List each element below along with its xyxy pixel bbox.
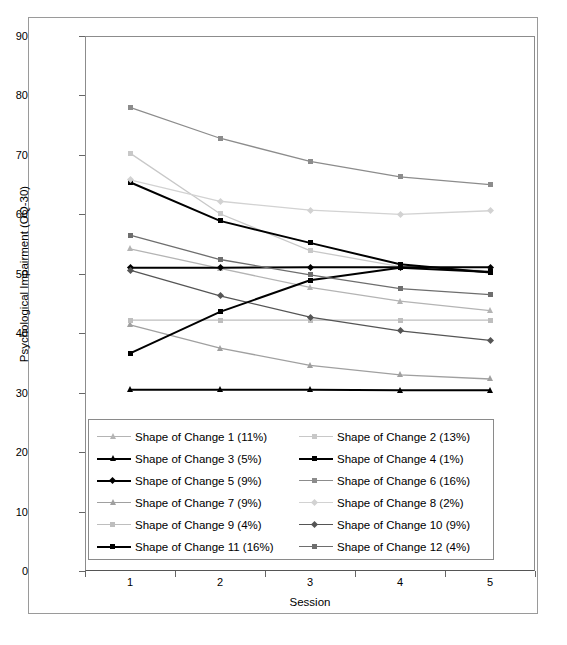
x-axis-tick-label: 4 <box>380 577 420 588</box>
legend-item[interactable]: Shape of Change 2 (13%) <box>291 426 493 448</box>
square-marker <box>128 105 133 110</box>
legend-label: Shape of Change 1 (11%) <box>135 431 267 443</box>
square-marker <box>488 292 493 297</box>
square-marker <box>312 544 317 549</box>
x-axis-tick-mark <box>175 571 176 577</box>
diamond-marker <box>109 476 116 483</box>
y-axis-tick-label: 20 <box>0 447 28 458</box>
legend-item[interactable]: Shape of Change 1 (11%) <box>89 426 291 448</box>
legend-label: Shape of Change 5 (9%) <box>135 475 262 487</box>
square-marker <box>398 318 403 323</box>
triangle-marker <box>307 284 313 290</box>
square-marker <box>308 248 313 253</box>
diamond-marker <box>311 520 318 527</box>
triangle-marker <box>217 386 223 392</box>
legend-swatch <box>97 519 131 531</box>
triangle-marker <box>397 387 403 393</box>
square-marker <box>218 318 223 323</box>
legend-swatch <box>299 431 333 443</box>
y-axis-tick-label: 90 <box>0 31 28 42</box>
triangle-marker <box>397 371 403 377</box>
square-marker <box>488 182 493 187</box>
square-marker <box>218 309 223 314</box>
square-marker <box>110 522 115 527</box>
triangle-marker <box>110 455 116 461</box>
y-axis-tick-label: 80 <box>0 90 28 101</box>
x-axis-tick-mark <box>535 571 536 577</box>
x-axis-tick-mark <box>265 571 266 577</box>
legend-item[interactable]: Shape of Change 7 (9%) <box>89 492 291 514</box>
chart-canvas: Psychological Impairment (OQ-30) Session… <box>0 0 567 645</box>
legend-label: Shape of Change 3 (5%) <box>135 453 262 465</box>
legend-swatch <box>299 541 333 553</box>
x-axis-tick-label: 2 <box>200 577 240 588</box>
triangle-marker <box>307 386 313 392</box>
legend-item[interactable]: Shape of Change 9 (4%) <box>89 514 291 536</box>
square-marker <box>312 434 317 439</box>
triangle-marker <box>487 307 493 313</box>
legend-swatch <box>97 431 131 443</box>
square-marker <box>218 136 223 141</box>
square-marker <box>398 174 403 179</box>
legend-item[interactable]: Shape of Change 10 (9%) <box>291 514 493 536</box>
y-axis-tick-label: 10 <box>0 506 28 517</box>
square-marker <box>218 257 223 262</box>
x-axis-tick-label: 5 <box>470 577 510 588</box>
triangle-marker <box>397 298 403 304</box>
series-line <box>130 182 490 272</box>
triangle-marker <box>110 433 116 439</box>
square-marker <box>218 211 223 216</box>
y-axis-tick-label: 40 <box>0 328 28 339</box>
x-axis-title: Session <box>85 596 535 608</box>
square-marker <box>128 151 133 156</box>
legend-label: Shape of Change 9 (4%) <box>135 519 262 531</box>
triangle-marker <box>110 499 116 505</box>
square-marker <box>218 218 223 223</box>
legend-item[interactable]: Shape of Change 5 (9%) <box>89 470 291 492</box>
legend-item[interactable]: Shape of Change 3 (5%) <box>89 448 291 470</box>
legend-item[interactable]: Shape of Change 12 (4%) <box>291 536 493 558</box>
square-marker <box>128 318 133 323</box>
legend-swatch <box>97 541 131 553</box>
square-marker <box>312 456 317 461</box>
square-marker <box>398 286 403 291</box>
square-marker <box>312 478 317 483</box>
legend-label: Shape of Change 11 (16%) <box>135 541 274 553</box>
x-axis-tick-label: 3 <box>290 577 330 588</box>
diamond-marker <box>311 498 318 505</box>
square-marker <box>128 351 133 356</box>
square-marker <box>488 269 493 274</box>
triangle-marker <box>487 387 493 393</box>
series-line <box>130 325 490 379</box>
legend-label: Shape of Change 4 (1%) <box>337 453 464 465</box>
legend: Shape of Change 1 (11%)Shape of Change 2… <box>88 419 494 560</box>
legend-swatch <box>299 475 333 487</box>
legend-label: Shape of Change 2 (13%) <box>337 431 470 443</box>
triangle-marker <box>127 386 133 392</box>
legend-swatch <box>299 519 333 531</box>
y-axis-tick-label: 50 <box>0 268 28 279</box>
legend-item[interactable]: Shape of Change 6 (16%) <box>291 470 493 492</box>
square-marker <box>308 272 313 277</box>
triangle-marker <box>487 375 493 381</box>
legend-swatch <box>299 453 333 465</box>
square-marker <box>308 278 313 283</box>
square-marker <box>398 265 403 270</box>
legend-label: Shape of Change 10 (9%) <box>337 519 470 531</box>
y-axis-tick-label: 70 <box>0 149 28 160</box>
series-line <box>130 107 490 184</box>
legend-swatch <box>97 475 131 487</box>
x-axis-tick-mark <box>355 571 356 577</box>
legend-label: Shape of Change 6 (16%) <box>337 475 470 487</box>
legend-swatch <box>97 453 131 465</box>
y-axis-tick-label: 0 <box>0 566 28 577</box>
y-axis-tick-label: 30 <box>0 387 28 398</box>
legend-item[interactable]: Shape of Change 4 (1%) <box>291 448 493 470</box>
legend-item[interactable]: Shape of Change 8 (2%) <box>291 492 493 514</box>
legend-label: Shape of Change 7 (9%) <box>135 497 262 509</box>
legend-item[interactable]: Shape of Change 11 (16%) <box>89 536 291 558</box>
legend-swatch <box>97 497 131 509</box>
square-marker <box>110 544 115 549</box>
triangle-marker <box>307 362 313 368</box>
legend-label: Shape of Change 12 (4%) <box>337 541 470 553</box>
